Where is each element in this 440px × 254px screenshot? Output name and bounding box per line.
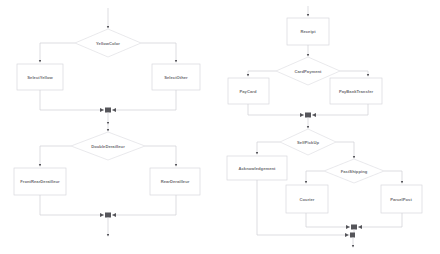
merge-arrow-left-b: [100, 213, 104, 217]
merge-arrow-right-ra: [312, 113, 316, 117]
flowchart-canvas: YellowColor SelectYellow SelectOther Dou…: [0, 0, 440, 254]
edge-frontrear-merge: [40, 195, 104, 215]
merge-node-ra: [305, 113, 311, 118]
edge-paybanktransfer-merge: [312, 104, 368, 115]
node-paycard: [228, 78, 269, 104]
edge-yellowcolor-selectother: [141, 43, 176, 62]
edge-doublederailleur-rear: [145, 146, 176, 166]
merge-arrow-left-rb-inner: [346, 225, 350, 229]
edge-yellowcolor-selectyellow: [40, 43, 75, 62]
edge-parcelpost-merge: [358, 213, 402, 227]
right-block-a: [228, 6, 382, 128]
node-courier: [286, 185, 328, 213]
left-block-a: [17, 8, 200, 124]
edge-doublederailleur-frontrear: [40, 146, 71, 166]
edge-cardpayment-paybanktransfer: [340, 71, 368, 76]
merge-arrow-right-a: [112, 108, 116, 112]
edge-courier-merge: [306, 213, 350, 227]
merge-node-a: [105, 108, 111, 113]
node-rearderailleur: [150, 168, 200, 195]
node-fastshipping: [324, 159, 384, 183]
merge-arrow-right-rb-inner: [358, 225, 362, 229]
node-doublederailleur: [71, 132, 145, 160]
node-receipt: [287, 18, 329, 45]
edge-fastshipping-parcelpost: [384, 171, 402, 183]
left-block-b: [14, 123, 200, 236]
node-acknowledgement: [227, 156, 287, 180]
merge-node-rb-outer: [350, 233, 355, 238]
flowchart-svg: [0, 0, 440, 254]
edge-selectyellow-merge: [40, 90, 104, 110]
edge-rear-merge: [112, 195, 176, 215]
node-paybanktransfer: [330, 78, 382, 104]
node-frontrearderailleur: [14, 168, 66, 195]
node-selectyellow: [17, 64, 63, 90]
edge-selfpickup-acknowledgement: [257, 142, 280, 154]
merge-arrow-left-ra: [300, 113, 304, 117]
merge-arrow-left-rb-outer: [345, 233, 349, 237]
merge-node-rb-inner: [351, 225, 357, 230]
merge-arrow-left-a: [100, 108, 104, 112]
node-yellowcolor: [75, 29, 141, 57]
node-selectother: [152, 64, 200, 90]
node-parcelpost: [381, 185, 422, 213]
merge-arrow-right-b: [112, 213, 116, 217]
edge-paycard-merge: [248, 104, 304, 115]
edge-selectother-merge: [112, 90, 176, 110]
edge-fastshipping-courier: [306, 171, 324, 183]
merge-node-b: [105, 213, 111, 218]
edge-cardpayment-paycard: [248, 71, 276, 76]
edge-selfpickup-fastshipping: [336, 142, 354, 158]
right-block-b: [227, 129, 422, 247]
node-selfpickup: [280, 129, 336, 155]
